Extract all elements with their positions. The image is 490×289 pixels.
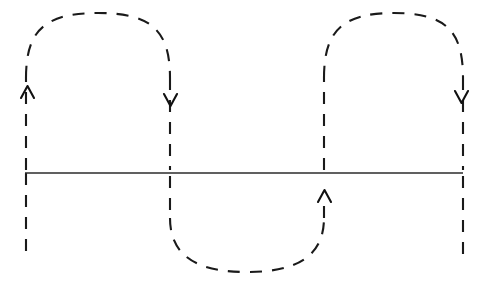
- arrow-left-up: [21, 86, 34, 98]
- left-top-arch: [26, 13, 170, 78]
- field-line-diagram: [0, 0, 490, 289]
- arrow-center-up: [318, 190, 331, 202]
- bottom-u-curve: [170, 218, 324, 272]
- diagram-canvas: [0, 0, 490, 289]
- arrow-right-down: [455, 91, 468, 103]
- right-loop-group: [324, 13, 463, 256]
- right-top-arch: [324, 13, 463, 78]
- left-loop-group: [26, 13, 324, 272]
